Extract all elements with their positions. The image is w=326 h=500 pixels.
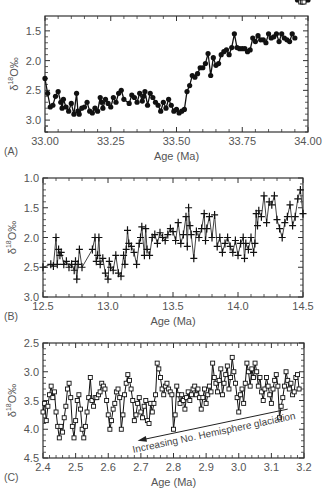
data-point-square — [127, 378, 131, 382]
data-point-square — [302, 0, 306, 4]
data-point-square — [248, 384, 252, 388]
data-point-circle — [216, 61, 221, 66]
data-point-square — [261, 399, 265, 403]
data-point-circle — [121, 97, 126, 102]
x-tick-label: 33.75 — [228, 135, 256, 147]
data-point-square — [165, 381, 169, 385]
y-tick-label: 2.5 — [24, 261, 39, 273]
data-point-circle — [140, 98, 145, 103]
data-point-square — [116, 387, 120, 391]
data-point-square — [62, 416, 66, 420]
x-tick-label: 3.1 — [264, 461, 279, 473]
y-axis-title: δ18O‰ — [5, 221, 18, 254]
data-point-square — [255, 370, 259, 374]
data-point-square — [139, 410, 143, 414]
data-point-plus — [190, 254, 197, 262]
data-point-circle — [132, 95, 137, 100]
data-point-square — [52, 390, 56, 394]
data-point-plus — [53, 234, 60, 242]
y-tick-label: 2.0 — [26, 55, 41, 67]
x-tick-label: 13.0 — [97, 300, 118, 312]
data-point-square — [67, 381, 71, 385]
data-point-plus — [216, 234, 223, 242]
data-point-square — [147, 422, 151, 426]
data-point-plus — [248, 234, 255, 242]
data-point-square — [287, 387, 291, 391]
x-tick-label: 2.6 — [101, 461, 116, 473]
data-point-square — [72, 436, 76, 440]
x-tick-label: 3.0 — [231, 461, 246, 473]
data-point-square — [229, 376, 233, 380]
data-point-square — [85, 410, 89, 414]
data-point-square — [273, 378, 277, 382]
data-point-square — [134, 413, 138, 417]
data-point-circle — [158, 109, 163, 114]
data-point-square — [219, 367, 223, 371]
x-tick-label: 14.5 — [292, 300, 313, 312]
data-point-circle — [84, 100, 89, 105]
data-point-circle — [232, 31, 237, 36]
data-point-square — [243, 381, 247, 385]
data-point-square — [268, 393, 272, 397]
data-point-circle — [187, 83, 192, 88]
data-point-circle — [119, 88, 124, 93]
data-point-circle — [69, 101, 74, 106]
data-point-circle — [100, 106, 105, 111]
panel-a-chart: 33.0033.2533.5033.7534.001.52.02.53.0Age… — [4, 0, 322, 162]
data-point-plus — [136, 239, 143, 247]
data-point-square — [123, 393, 127, 397]
data-point-square — [172, 427, 176, 431]
data-point-square — [92, 404, 96, 408]
data-point-square — [83, 424, 87, 428]
data-point-square — [212, 376, 216, 380]
data-point-square — [274, 373, 278, 377]
data-point-circle — [161, 100, 166, 105]
panel-label: (B) — [4, 310, 18, 322]
data-point-square — [108, 427, 112, 431]
y-tick-label: 3.0 — [24, 291, 39, 303]
data-point-square — [266, 384, 270, 388]
data-point-square — [222, 381, 226, 385]
data-point-plus — [289, 222, 296, 230]
data-point-plus — [180, 231, 187, 239]
data-point-circle — [229, 45, 234, 50]
data-point-circle — [90, 110, 95, 115]
data-point-plus — [209, 234, 216, 242]
data-point-plus — [202, 236, 209, 244]
data-point-square — [173, 413, 177, 417]
data-point-circle — [227, 52, 232, 57]
data-point-square — [103, 387, 107, 391]
data-point-plus — [271, 192, 278, 200]
data-point-plus — [112, 251, 119, 259]
data-point-circle — [292, 35, 297, 40]
data-point-square — [183, 407, 187, 411]
panel-b-chart: 12.513.013.514.014.51.01.52.02.53.0Age (… — [4, 172, 314, 327]
y-tick-label: 2.5 — [26, 84, 41, 96]
data-point-square — [209, 390, 213, 394]
data-point-square — [189, 393, 193, 397]
data-point-square — [281, 396, 285, 400]
data-point-plus — [287, 201, 294, 209]
data-point-square — [276, 384, 280, 388]
data-point-plus — [241, 254, 248, 262]
y-tick-label: 2.5 — [24, 337, 39, 349]
data-point-square — [41, 410, 45, 414]
data-point-square — [233, 381, 237, 385]
x-axis-title: Age (Ma) — [150, 315, 195, 327]
data-point-square — [118, 396, 122, 400]
data-point-square — [245, 361, 249, 365]
data-point-square — [284, 370, 288, 374]
data-point-square — [157, 367, 161, 371]
data-point-plus — [124, 226, 131, 234]
data-point-circle — [276, 39, 281, 44]
data-point-circle — [274, 31, 279, 36]
data-point-square — [113, 401, 117, 405]
data-point-square — [65, 387, 69, 391]
data-point-square — [271, 387, 275, 391]
data-point-circle — [111, 95, 116, 100]
data-series-line — [45, 34, 295, 114]
x-tick-label: 34.00 — [294, 135, 322, 147]
data-point-plus — [254, 222, 261, 230]
data-point-circle — [53, 94, 58, 99]
data-point-circle — [56, 89, 61, 94]
